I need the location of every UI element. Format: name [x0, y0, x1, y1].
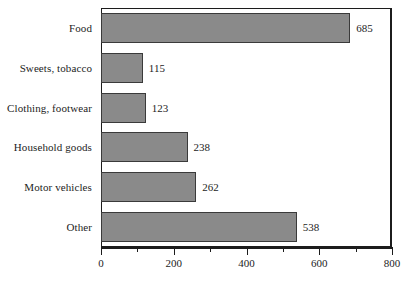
bar [101, 13, 350, 43]
bar [101, 93, 146, 123]
x-axis-tick-label: 800 [384, 257, 401, 270]
bar [101, 132, 188, 162]
bar-value-label: 262 [202, 181, 219, 193]
x-axis-tick-label: 600 [311, 257, 328, 270]
bar [101, 212, 297, 242]
bar-value-label: 685 [356, 22, 373, 34]
bar-value-label: 115 [149, 62, 165, 74]
x-axis-major-tick [174, 249, 175, 255]
x-axis-major-tick [392, 249, 393, 255]
x-axis-tick-labels: 0200400600800 [101, 257, 393, 275]
bar-value-label: 238 [194, 141, 211, 153]
category-label: Clothing, footwear [7, 102, 92, 114]
category-axis-labels: FoodSweets, tobaccoClothing, footwearHou… [0, 0, 97, 247]
x-axis [101, 247, 393, 257]
x-axis-tick-label: 400 [238, 257, 255, 270]
category-label: Sweets, tobacco [20, 62, 92, 74]
x-axis-minor-tick [356, 249, 357, 252]
x-axis-major-tick [247, 249, 248, 255]
x-axis-minor-tick [137, 249, 138, 252]
category-label: Other [66, 221, 92, 233]
x-axis-major-tick [319, 249, 320, 255]
category-label: Motor vehicles [24, 181, 92, 193]
category-label: Food [69, 22, 92, 34]
x-axis-tick-label: 200 [166, 257, 183, 270]
x-axis-major-tick [101, 249, 102, 255]
x-axis-minor-tick [210, 249, 211, 252]
bar-value-label: 123 [152, 102, 169, 114]
bar [101, 172, 196, 202]
bars-layer: 685115123238262538 [101, 8, 392, 247]
bar-chart: FoodSweets, tobaccoClothing, footwearHou… [0, 0, 407, 287]
x-axis-minor-tick [283, 249, 284, 252]
category-label: Household goods [14, 141, 92, 153]
bar [101, 53, 143, 83]
x-axis-tick-label: 0 [98, 257, 104, 270]
bar-value-label: 538 [303, 221, 320, 233]
